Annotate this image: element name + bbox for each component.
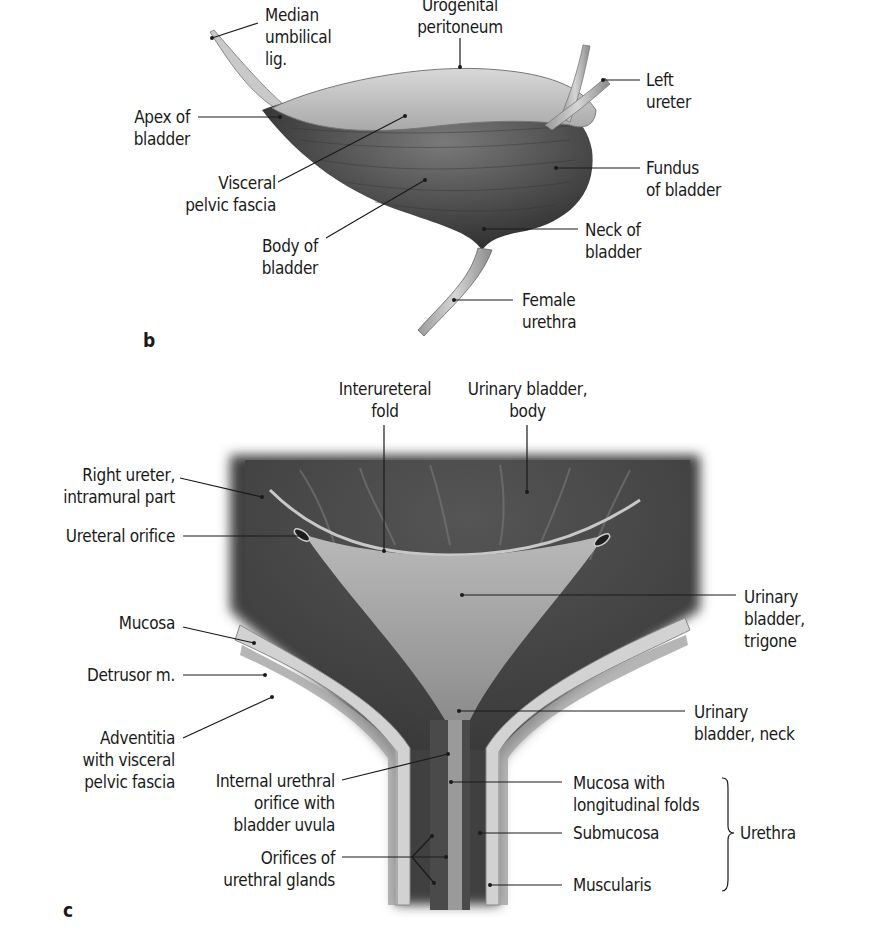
label-mucosa: Mucosa [20, 612, 175, 634]
label-interureteral-fold: Interureteral fold [325, 378, 445, 422]
label-urinary-bladder-trigone: Urinary bladder, trigone [744, 586, 805, 652]
label-adventitia: Adventitia with visceral pelvic fascia [20, 727, 175, 793]
label-detrusor: Detrusor m. [20, 664, 175, 686]
label-internal-urethral-orifice: Internal urethral orifice with bladder u… [180, 770, 335, 836]
label-visceral-pelvic-fascia: Visceral pelvic fascia [160, 172, 276, 216]
label-muscularis: Muscularis [573, 874, 651, 896]
label-female-urethra: Female urethra [522, 289, 576, 333]
label-mucosa-longitudinal-folds: Mucosa with longitudinal folds [573, 772, 699, 816]
label-submucosa: Submucosa [573, 822, 659, 844]
label-urinary-bladder-body: Urinary bladder, body [450, 378, 605, 422]
label-median-umbilical-lig: Median umbilical lig. [265, 4, 331, 70]
label-neck-of-bladder: Neck of bladder [585, 219, 641, 263]
label-ureteral-orifice: Ureteral orifice [20, 525, 175, 547]
label-urethra-group: Urethra [740, 822, 796, 844]
label-left-ureter: Left ureter [646, 69, 691, 113]
label-orifices-urethral-glands: Orifices of urethral glands [180, 847, 335, 891]
label-body-of-bladder: Body of bladder [230, 235, 318, 279]
label-urinary-bladder-neck: Urinary bladder, neck [694, 701, 795, 745]
panel-letter-c: c [63, 899, 73, 921]
panel-letter-b: b [143, 329, 155, 351]
label-urogenital-peritoneum: Urogenital peritoneum [400, 0, 520, 38]
label-right-ureter-intramural: Right ureter, intramural part [20, 464, 175, 508]
label-apex-of-bladder: Apex of bladder [100, 106, 190, 150]
label-fundus-of-bladder: Fundus of bladder [646, 157, 721, 201]
